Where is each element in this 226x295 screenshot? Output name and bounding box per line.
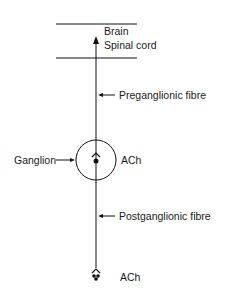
- cns-label-brain: Brain: [104, 25, 129, 37]
- postganglionic-label: Postganglionic fibre: [119, 210, 211, 222]
- arrow-up-icon: [93, 36, 99, 44]
- arrow-left-icon: [98, 214, 103, 218]
- preganglionic-label: Preganglionic fibre: [119, 89, 206, 101]
- terminal-vesicle-icon: [94, 277, 98, 281]
- arrow-right-icon: [70, 158, 75, 162]
- effector-transmitter-label: ACh: [120, 271, 140, 283]
- terminal-chevron-icon: [92, 269, 100, 273]
- terminal-vesicle-icon: [92, 274, 96, 278]
- cns-label-spinal-cord: Spinal cord: [104, 39, 157, 51]
- terminal-vesicle-icon: [96, 274, 100, 278]
- ganglion-label: Ganglion: [14, 154, 56, 166]
- synapse-dot-icon: [94, 159, 99, 164]
- arrow-left-icon: [98, 93, 103, 97]
- ganglion-transmitter-label: ACh: [121, 154, 141, 166]
